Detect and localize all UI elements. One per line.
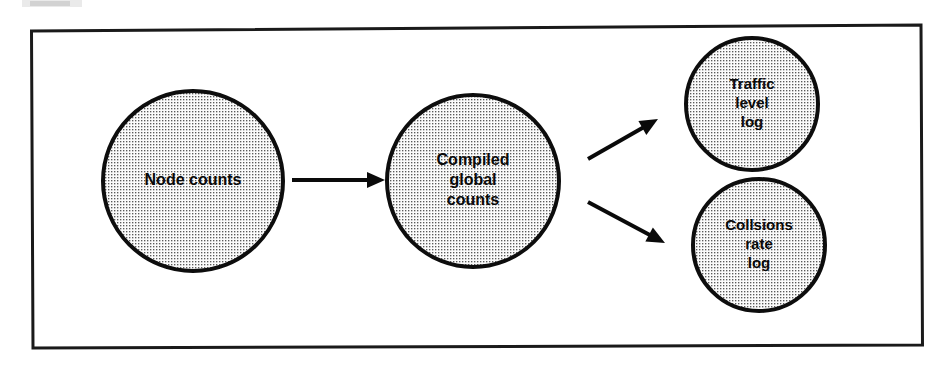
node-collsions-rate-log[interactable]: Collsionsratelog (693, 179, 825, 311)
node-label: Node counts (145, 171, 242, 188)
arrow-node-counts-to-compiled-global-counts (292, 172, 385, 188)
node-node-counts[interactable]: Node counts (103, 91, 283, 271)
arrow-shaft (588, 202, 653, 236)
node-label-line: Compiled (437, 151, 510, 168)
node-compiled-global-counts[interactable]: Compiledglobalcounts (387, 95, 559, 267)
node-label-line: global (449, 171, 496, 188)
diagram-canvas: Node counts Compiledglobalcounts Traffic… (0, 0, 947, 366)
node-label-line: level (735, 94, 768, 111)
flow-diagram: Node counts Compiledglobalcounts Traffic… (0, 0, 947, 366)
arrow-compiled-global-counts-to-collsions-rate-log (588, 202, 665, 243)
node-label-line: Node counts (145, 171, 242, 188)
node-label-line: rate (745, 235, 773, 252)
node-label-line: Traffic (729, 75, 774, 92)
node-label-line: log (748, 254, 771, 271)
arrow-shaft (588, 126, 646, 159)
arrow-head-icon (367, 172, 385, 188)
node-label-line: counts (447, 191, 500, 208)
node-label-line: log (741, 113, 764, 130)
node-label-line: Collsions (725, 216, 793, 233)
arrow-compiled-global-counts-to-traffic-level-log (588, 119, 658, 159)
node-traffic-level-log[interactable]: Trafficlevellog (686, 38, 818, 170)
